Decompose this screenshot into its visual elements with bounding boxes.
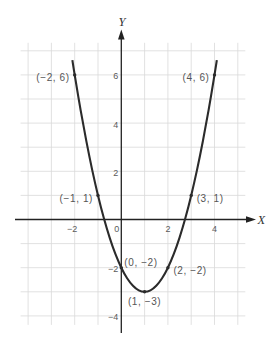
point-marker — [120, 266, 123, 269]
point-label: (2, −2) — [173, 265, 206, 276]
y-tick-label: 4 — [113, 120, 118, 130]
x-tick-label: 2 — [165, 224, 170, 234]
y-tick-label: −2 — [108, 264, 118, 274]
point-marker — [166, 266, 169, 269]
point-label: (1, −3) — [128, 296, 161, 307]
point-label: (4, 6) — [183, 72, 210, 83]
x-tick-label: 4 — [212, 224, 217, 234]
point-label: (0, −2) — [124, 257, 157, 268]
x-tick-label: −2 — [67, 224, 77, 234]
x-tick-label: 0 — [114, 224, 119, 234]
point-label: (3, 1) — [197, 193, 224, 204]
chart-figure: X Y −2024642−2−4 (−2, 6)(4, 6)(−1, 1)(3,… — [0, 0, 278, 345]
point-marker — [73, 73, 76, 76]
point-label: (−1, 1) — [60, 193, 93, 204]
point-marker — [213, 73, 216, 76]
point-marker — [190, 194, 193, 197]
chart-background — [0, 0, 278, 345]
y-tick-label: 6 — [113, 71, 118, 81]
y-tick-label: 2 — [113, 168, 118, 178]
point-marker — [143, 290, 146, 293]
parabola-graph: X Y −2024642−2−4 (−2, 6)(4, 6)(−1, 1)(3,… — [0, 0, 278, 345]
x-axis-title: X — [257, 213, 267, 227]
point-label: (−2, 6) — [36, 72, 69, 83]
y-tick-label: −4 — [108, 312, 118, 322]
point-marker — [96, 194, 99, 197]
